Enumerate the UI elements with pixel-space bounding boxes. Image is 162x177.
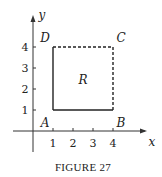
region-label: R xyxy=(77,73,87,87)
x-tick-3: 3 xyxy=(90,137,97,150)
figure-diagram: 1 2 3 4 1 2 3 4 x y A B C D R FIGURE 27 xyxy=(0,0,162,177)
y-tick-4: 4 xyxy=(22,41,29,54)
vertex-c-label: C xyxy=(116,31,125,45)
vertex-a-label: A xyxy=(40,116,50,130)
x-tick-4: 4 xyxy=(110,137,117,150)
x-axis-label: x xyxy=(149,135,156,149)
vertex-b-label: B xyxy=(116,116,126,130)
x-axis-arrow-icon xyxy=(140,129,147,134)
y-tick-3: 3 xyxy=(22,62,29,75)
y-tick-1: 1 xyxy=(22,104,29,117)
figure-caption: FIGURE 27 xyxy=(55,161,111,173)
x-tick-2: 2 xyxy=(70,137,77,150)
vertex-d-label: D xyxy=(39,31,50,45)
y-axis-label: y xyxy=(38,8,46,22)
x-tick-1: 1 xyxy=(50,137,57,150)
y-tick-2: 2 xyxy=(22,83,29,96)
y-axis-arrow-icon xyxy=(31,15,36,22)
